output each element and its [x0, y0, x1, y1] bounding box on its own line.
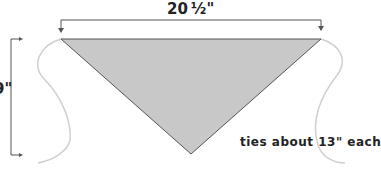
top-dimension-line [58, 20, 324, 33]
ties-note-label: ties about 13" each [240, 135, 381, 149]
left-tie [38, 39, 70, 163]
side-dimension-label: 9" [0, 80, 12, 98]
side-dimension-line [11, 37, 23, 157]
top-dimension-label: 20 ½" [167, 0, 214, 18]
